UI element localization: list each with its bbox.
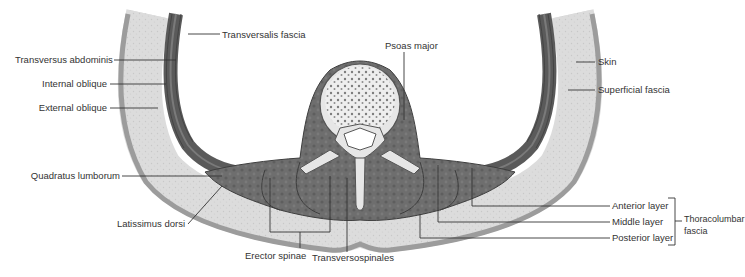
label-latissimus-dorsi: Latissimus dorsi [90,218,185,229]
label-posterior-layer: Posterior layer [612,232,673,243]
label-transversus-abdominis: Transversus abdominis [15,54,111,65]
label-external-oblique: External oblique [10,102,107,113]
label-middle-layer: Middle layer [612,216,663,227]
label-internal-oblique: Internal oblique [10,78,107,89]
label-thoracolumbar-fascia-line2: fascia [684,226,708,237]
label-psoas-major: Psoas major [385,40,438,51]
label-skin: Skin [598,56,616,67]
label-quadratus-lumborum: Quadratus lumborum [10,170,120,181]
label-anterior-layer: Anterior layer [612,200,669,211]
label-transversospinales: Transversospinales [312,252,394,263]
label-thoracolumbar-fascia-line1: Thoracolumbar [684,214,745,225]
label-superficial-fascia: Superficial fascia [598,84,670,95]
label-transversalis-fascia: Transversalis fascia [222,29,306,40]
label-erector-spinae: Erector spinae [245,250,306,261]
